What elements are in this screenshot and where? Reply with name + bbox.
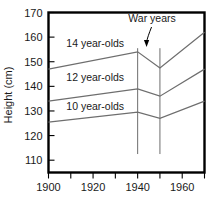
series-inline-label: 12 year-olds — [66, 71, 124, 83]
war-years-marker-lines — [138, 48, 160, 154]
series-inline-label: 10 year-olds — [66, 100, 124, 112]
y-tick-label: 110 — [25, 154, 43, 166]
series-inline-label: 14 year-olds — [66, 37, 124, 49]
x-tick-label: 1900 — [36, 181, 60, 193]
y-tick-label: 120 — [24, 130, 42, 142]
y-axis-title-text: Height (cm) — [2, 67, 14, 124]
war-years-arrow-line — [147, 27, 152, 42]
height-trend-line-chart: Height (cm) 110120130140150160170 190019… — [0, 0, 219, 208]
series-inline-labels: 14 year-olds12 year-olds10 year-olds — [66, 37, 124, 112]
y-tick-label: 140 — [24, 80, 42, 92]
x-tick-label: 1940 — [125, 181, 149, 193]
war-years-arrow-head — [144, 40, 149, 47]
x-tick-label: 1960 — [170, 181, 194, 193]
y-axis-ticks: 110120130140150160170 — [24, 7, 54, 167]
y-tick-label: 130 — [24, 105, 42, 117]
y-axis-title: Height (cm) — [2, 67, 14, 124]
y-tick-label: 170 — [24, 7, 42, 19]
chart-container: Height (cm) 110120130140150160170 190019… — [0, 0, 219, 208]
y-tick-label: 160 — [24, 31, 42, 43]
x-axis-ticks: 1900192019401960 — [36, 173, 204, 193]
x-tick-label: 1920 — [81, 181, 105, 193]
war-years-label: War years — [128, 12, 175, 24]
war-years-annotation: War years — [128, 12, 175, 47]
y-tick-label: 150 — [24, 56, 42, 68]
